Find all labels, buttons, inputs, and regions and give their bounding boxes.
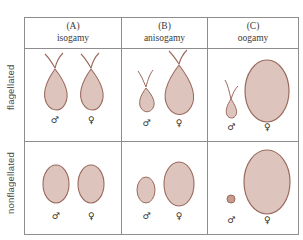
row-label-nonflagellated: nonflagellated [5, 140, 19, 226]
cell-nonflagellated-isogamy: ♂ ♀ [25, 142, 122, 235]
male-symbol: ♂ [52, 211, 60, 221]
male-symbol: ♂ [227, 122, 235, 132]
column-name-oogamy: oogamy [208, 33, 298, 45]
cell-flagellated-oogamy: ♂ ♀ [208, 49, 299, 142]
column-tag-a: (A) [25, 21, 121, 33]
gamete-male-nonflagellated-isogamy [43, 165, 69, 203]
male-symbol: ♂ [51, 115, 59, 125]
female-symbol: ♀ [88, 115, 95, 125]
header-cell-anisogamy: (B) anisogamy [122, 18, 208, 49]
column-tag-b: (B) [122, 21, 207, 33]
gamete-female-nonflagellated-oogamy [244, 150, 290, 214]
gamete-male-nonflagellated-oogamy [227, 195, 235, 203]
female-symbol: ♀ [264, 215, 271, 225]
cell-nonflagellated-oogamy: ♂ ♀ [208, 142, 299, 235]
header-cell-isogamy: (A) isogamy [25, 18, 122, 49]
gamete-male-flagellated-isogamy [45, 53, 68, 110]
gamete-male-flagellated-anisogamy [138, 70, 154, 112]
gamete-male-nonflagellated-anisogamy [137, 177, 155, 203]
cell-flagellated-isogamy: ♂ ♀ [25, 49, 122, 142]
cell-flagellated-anisogamy: ♂ ♀ [122, 49, 208, 142]
male-symbol: ♂ [143, 211, 151, 221]
male-symbol: ♂ [227, 215, 235, 225]
table-header-row: (A) isogamy (B) anisogamy (C) oogamy [25, 18, 299, 49]
cell-nonflagellated-anisogamy: ♂ ♀ [122, 142, 208, 235]
column-name-anisogamy: anisogamy [122, 33, 207, 45]
female-symbol: ♀ [88, 211, 95, 221]
column-name-isogamy: isogamy [25, 33, 121, 45]
nonflagellated-row: ♂ ♀ ♂ ♀ [25, 142, 299, 235]
female-symbol: ♀ [176, 211, 183, 221]
gamete-female-flagellated-isogamy [81, 53, 104, 110]
gamete-male-flagellated-oogamy [225, 80, 238, 118]
female-symbol: ♀ [176, 118, 183, 128]
female-symbol: ♀ [264, 122, 271, 132]
male-symbol: ♂ [143, 118, 151, 128]
gamete-types-figure: flagellated nonflagellated (A) isogamy (… [0, 0, 303, 240]
header-cell-oogamy: (C) oogamy [208, 18, 299, 49]
gamete-female-nonflagellated-oogamy [245, 60, 289, 122]
gamete-female-nonflagellated-anisogamy [164, 162, 194, 206]
row-label-flagellated: flagellated [5, 48, 19, 126]
gamete-female-nonflagellated-isogamy [78, 165, 104, 203]
gamete-comparison-table: (A) isogamy (B) anisogamy (C) oogamy [24, 17, 299, 235]
column-tag-c: (C) [208, 21, 298, 33]
gamete-female-flagellated-anisogamy [165, 50, 193, 115]
flagellated-row: ♂ ♀ [25, 49, 299, 142]
